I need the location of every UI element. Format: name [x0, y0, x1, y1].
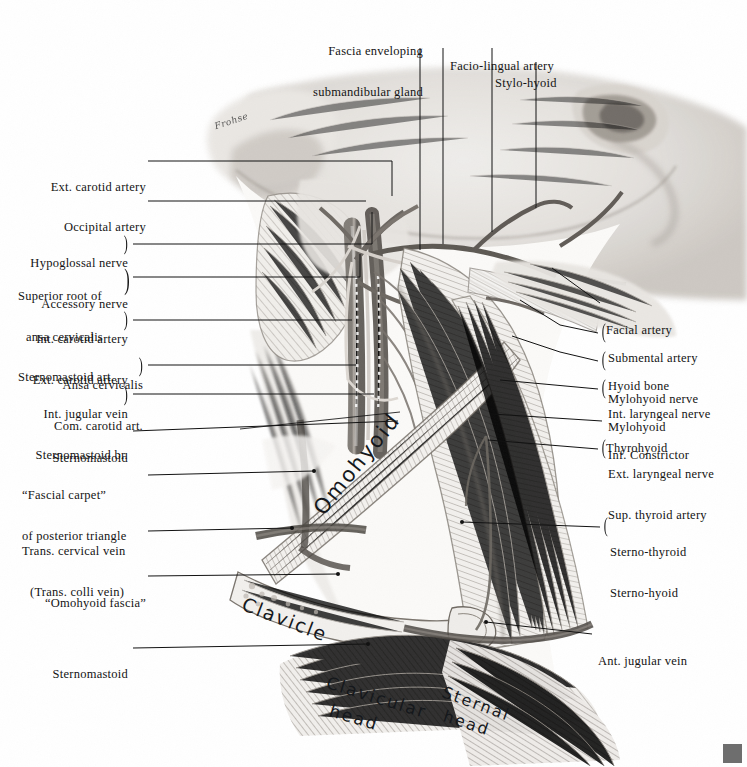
corner-mark: [723, 744, 742, 763]
brace-sterno-thyroid-hyoid: (: [604, 514, 608, 536]
label-line: Ext. laryngeal nerve: [608, 468, 714, 482]
label-line: Int. carotid artery: [0, 333, 128, 347]
label-line: Ant. jugular vein: [598, 655, 687, 669]
label-line: Ext. carotid artery: [0, 181, 146, 195]
label-fascia-submandibular: Fascia enveloping submandibular gland: [228, 18, 423, 126]
label-line: Fascia enveloping: [228, 45, 423, 59]
label-line: “Omohyoid fascia”: [0, 597, 146, 611]
label-line: Superior root of: [18, 290, 128, 304]
anatomical-plate: Fascia enveloping submandibular gland Fa…: [0, 0, 747, 767]
brace-int-laryngeal-inf-constrictor: (: [602, 376, 606, 398]
label-line: Sterno-thyroid: [610, 546, 686, 560]
label-stylo-hyoid: Stylo-hyoid: [495, 50, 557, 118]
brace-hyoid-mylohyoid: (: [602, 348, 606, 370]
label-line: Trans. cervical vein: [22, 545, 148, 559]
brace-ext-laryngeal-sup-thyroid: (: [602, 436, 606, 458]
label-sternomastoid-lower: Sternomastoid: [0, 641, 128, 709]
brace-int-ext-carotid: ): [124, 308, 128, 330]
label-line: submandibular gland: [228, 86, 423, 100]
brace-ansa-com-carotid: ): [139, 354, 143, 376]
label-line: Sterno-hyoid: [610, 587, 686, 601]
label-omohyoid-fascia: “Omohyoid fascia”: [0, 570, 146, 638]
brace-int-jugular: ): [124, 383, 128, 405]
brace-superior-root-ansa: ): [124, 268, 130, 290]
label-sterno-thyroid-sterno-hyoid: Sterno-thyroid Sterno-hyoid: [610, 519, 686, 627]
label-line: Stylo-hyoid: [495, 77, 557, 91]
label-line: “Fascial carpet”: [22, 489, 148, 503]
label-ant-jugular-vein: Ant. jugular vein: [598, 628, 687, 696]
brace-hypoglossal-accessory: ): [124, 232, 128, 254]
brace-submental-mylohyoid: (: [602, 320, 606, 342]
label-line: Int. jugular vein: [0, 408, 128, 422]
label-line: Sternomastoid: [0, 668, 128, 682]
